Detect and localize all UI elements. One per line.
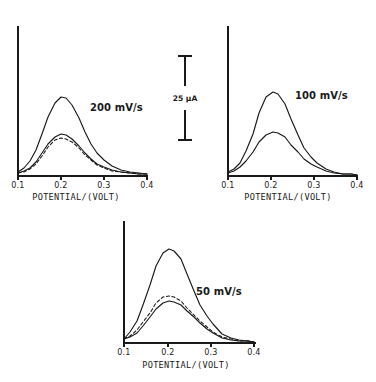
- scan-rate-label: 200 mV/s: [90, 102, 143, 113]
- x-tick-label-1: 0.2: [264, 181, 277, 190]
- panel-50mvs: 0.1 0.2 0.3 0.4 POTENTIAL/(VOLT) 50 mV/s: [96, 205, 286, 382]
- scan-rate-label: 100 mV/s: [295, 90, 348, 101]
- x-axis-title: POTENTIAL/(VOLT): [32, 192, 120, 202]
- curve-1-solid-upper: [228, 92, 357, 175]
- curve-2-solid-lower: [228, 132, 357, 175]
- x-tick-label-0: 0.1: [11, 181, 24, 190]
- panel-50mvs-plot: 0.1 0.2 0.3 0.4 POTENTIAL/(VOLT) 50 mV/s: [96, 205, 286, 382]
- curve-3-dashed: [18, 138, 147, 174]
- x-tick-label-0: 0.1: [117, 348, 130, 357]
- x-tick-label-2: 0.3: [97, 181, 110, 190]
- panel-100mvs: 0.1 0.2 0.3 0.4 POTENTIAL/(VOLT) 100 mV/…: [210, 8, 376, 200]
- x-tick-label-1: 0.2: [161, 348, 174, 357]
- x-tick-label-0: 0.1: [221, 181, 234, 190]
- x-axis-title: POTENTIAL/(VOLT): [244, 192, 332, 202]
- panel-100mvs-plot: 0.1 0.2 0.3 0.4 POTENTIAL/(VOLT) 100 mV/…: [210, 8, 376, 200]
- scan-rate-label: 50 mV/s: [196, 286, 242, 297]
- x-tick-label-2: 0.3: [204, 348, 217, 357]
- scale-bar-label: 25 µA: [173, 94, 198, 103]
- x-tick-label-3: 0.4: [140, 181, 153, 190]
- x-tick-label-3: 0.4: [350, 181, 363, 190]
- voltammetry-figure: 0.1 0.2 0.3 0.4 POTENTIAL/(VOLT) 200 mV/…: [0, 0, 376, 382]
- x-tick-label-3: 0.4: [247, 348, 260, 357]
- x-tick-label-1: 0.2: [54, 181, 67, 190]
- curves-group: [228, 92, 357, 175]
- x-tick-label-2: 0.3: [307, 181, 320, 190]
- x-axis-title: POTENTIAL/(VOLT): [142, 360, 230, 370]
- curve-2-solid-lower: [124, 301, 254, 342]
- curve-2-solid-lower: [18, 134, 147, 174]
